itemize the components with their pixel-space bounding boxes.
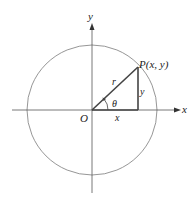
point-label: P(x, y) [139, 59, 168, 70]
angle-arc [104, 99, 108, 110]
x-axis-label: x [182, 104, 187, 115]
vertical-leg-label: y [140, 87, 144, 97]
origin-label: O [80, 113, 88, 124]
y-axis-label: y [88, 11, 93, 22]
y-axis-arrow-icon [90, 23, 95, 30]
horizontal-leg-label: x [115, 113, 119, 123]
x-axis-arrow-icon [174, 108, 181, 113]
unit-circle-diagram [0, 0, 191, 201]
angle-label: θ [112, 99, 117, 109]
radius-label: r [112, 77, 116, 87]
